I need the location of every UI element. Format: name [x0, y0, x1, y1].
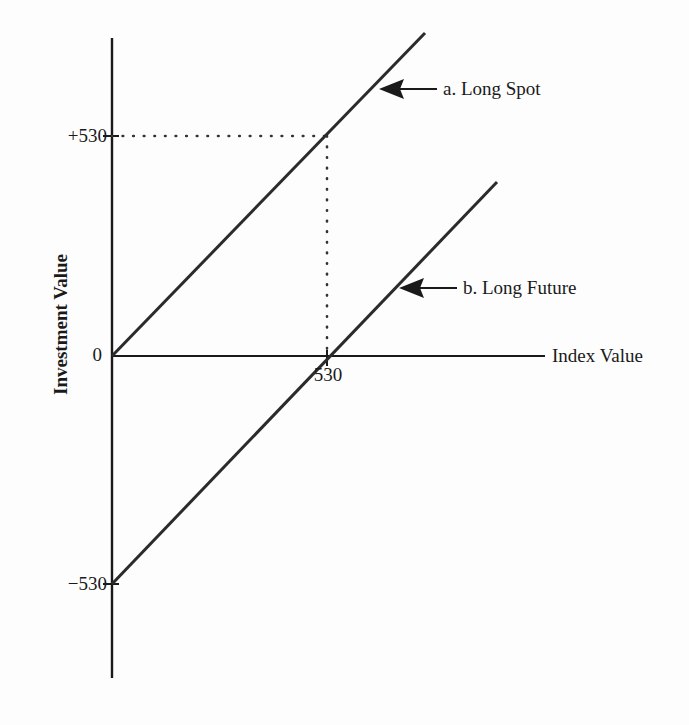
x-tick-label-530: 530 — [305, 365, 351, 384]
x-axis-title: Index Value — [552, 346, 643, 365]
chart-figure: Investment Value Index Value +530 0 −530… — [0, 0, 689, 725]
series-label-long-future: b. Long Future — [463, 278, 576, 297]
y-tick-label-plus530: +530 — [55, 126, 107, 145]
y-tick-label-zero: 0 — [76, 345, 102, 364]
callout-arrow-long-future — [399, 278, 457, 298]
y-tick-label-minus530: −530 — [55, 574, 107, 593]
callout-arrow-long-spot — [379, 79, 437, 99]
y-axis-title: Investment Value — [51, 230, 70, 420]
series-label-long-spot: a. Long Spot — [443, 79, 541, 98]
